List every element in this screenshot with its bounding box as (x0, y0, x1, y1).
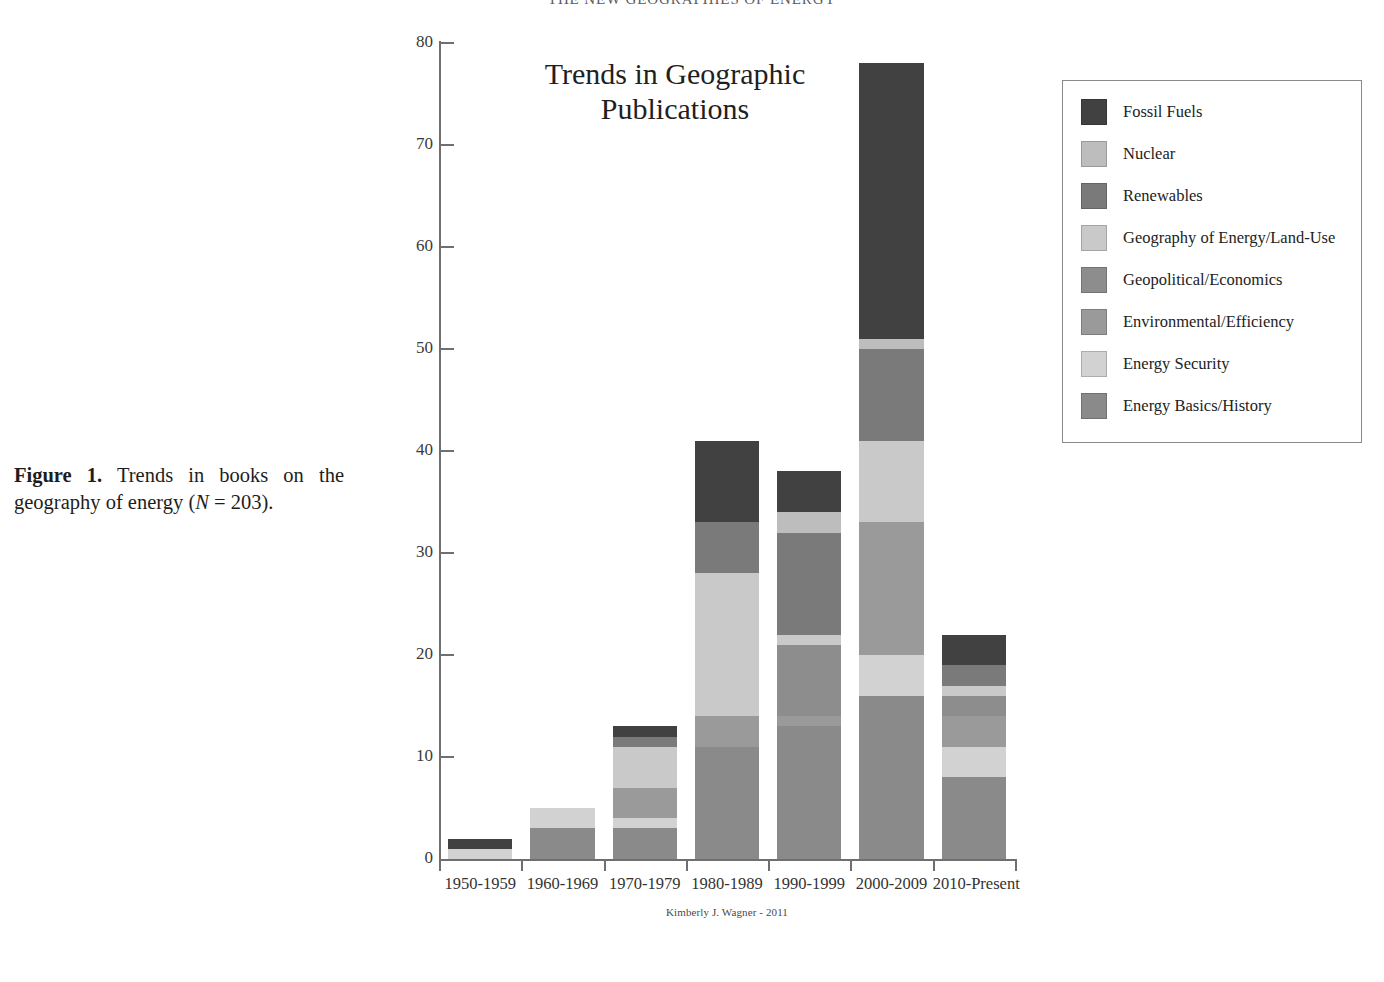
legend-label: Geography of Energy/Land-Use (1123, 228, 1335, 248)
bar-segment (942, 635, 1006, 666)
bar-segment (613, 737, 677, 747)
bar-segment (613, 828, 677, 859)
x-axis-label-1950-1959: 1950-1959 (439, 874, 521, 894)
chart-figure: Trends in Geographic Publications 010203… (415, 38, 1015, 863)
x-axis-label-2000-2009: 2000-2009 (850, 874, 932, 894)
bar-segment (777, 726, 841, 859)
bar-segment (695, 747, 759, 859)
x-axis-label-1960-1969: 1960-1969 (521, 874, 603, 894)
bar-segment (942, 665, 1006, 685)
running-head: THE NEW GEOGRAPHIES OF ENERGY (0, 0, 1384, 8)
x-axis-label-1990-1999: 1990-1999 (768, 874, 850, 894)
y-tick-label-70: 70 (389, 134, 433, 154)
bar-segment (777, 645, 841, 716)
bar-segment (942, 696, 1006, 716)
bar-2010-Present (942, 635, 1006, 859)
bar-segment (777, 471, 841, 512)
figure-caption: Figure 1. Trends in books on the geograp… (14, 462, 344, 517)
bar-1950-1959 (448, 839, 512, 859)
bar-segment (942, 777, 1006, 859)
bar-segment (613, 726, 677, 736)
legend-label: Environmental/Efficiency (1123, 312, 1294, 332)
legend-item-environmental-efficiency[interactable]: Environmental/Efficiency (1081, 309, 1351, 335)
y-tick-label-40: 40 (389, 440, 433, 460)
bar-segment (695, 716, 759, 747)
bar-segment (613, 818, 677, 828)
plot-area: 01020304050607080 1950-19591960-19691970… (415, 38, 1015, 863)
y-tick-label-10: 10 (389, 746, 433, 766)
figure-page: THE NEW GEOGRAPHIES OF ENERGY Figure 1. … (0, 0, 1384, 982)
x-axis-label-2010-Present: 2010-Present (933, 874, 1015, 894)
bar-segment (942, 686, 1006, 696)
legend-label: Energy Basics/History (1123, 396, 1272, 416)
legend-swatch-icon (1081, 183, 1107, 209)
bar-segment (777, 512, 841, 532)
legend-item-nuclear[interactable]: Nuclear (1081, 141, 1351, 167)
bar-segment (530, 808, 594, 828)
y-tick-label-0: 0 (389, 848, 433, 868)
bar-1980-1989 (695, 441, 759, 859)
legend-label: Nuclear (1123, 144, 1175, 164)
chart-credit: Kimberly J. Wagner - 2011 (439, 906, 1015, 918)
legend-item-renewables[interactable]: Renewables (1081, 183, 1351, 209)
bar-segment (859, 63, 923, 338)
bar-segment (777, 635, 841, 645)
bar-segment (530, 828, 594, 859)
legend-swatch-icon (1081, 225, 1107, 251)
bar-2000-2009 (859, 63, 923, 859)
legend-item-geography-of-energy-land-use[interactable]: Geography of Energy/Land-Use (1081, 225, 1351, 251)
legend-label: Renewables (1123, 186, 1203, 206)
legend-swatch-icon (1081, 267, 1107, 293)
caption-italic-n: N (195, 491, 209, 513)
legend-swatch-icon (1081, 309, 1107, 335)
legend-label: Geopolitical/Economics (1123, 270, 1282, 290)
legend-swatch-icon (1081, 99, 1107, 125)
bar-segment (613, 788, 677, 819)
y-tick-label-30: 30 (389, 542, 433, 562)
bar-segment (942, 747, 1006, 778)
legend-item-energy-security[interactable]: Energy Security (1081, 351, 1351, 377)
chart-legend: Fossil FuelsNuclearRenewablesGeography o… (1062, 80, 1362, 443)
legend-swatch-icon (1081, 393, 1107, 419)
x-axis-labels: 1950-19591960-19691970-19791980-19891990… (439, 874, 1015, 900)
legend-item-energy-basics-history[interactable]: Energy Basics/History (1081, 393, 1351, 419)
bar-segment (942, 716, 1006, 747)
bar-1990-1999 (777, 471, 841, 859)
y-tick-label-80: 80 (389, 32, 433, 52)
bar-segment (859, 696, 923, 859)
bar-segment (448, 839, 512, 849)
bar-series-group (439, 38, 1015, 861)
bar-segment (859, 441, 923, 523)
bar-segment (448, 849, 512, 859)
x-axis-label-1980-1989: 1980-1989 (686, 874, 768, 894)
caption-label: Figure 1. (14, 464, 102, 486)
y-tick-label-20: 20 (389, 644, 433, 664)
bar-segment (859, 349, 923, 441)
bar-segment (859, 339, 923, 349)
legend-label: Fossil Fuels (1123, 102, 1202, 122)
y-tick-label-60: 60 (389, 236, 433, 256)
bar-segment (859, 655, 923, 696)
bar-segment (695, 573, 759, 716)
legend-item-geopolitical-economics[interactable]: Geopolitical/Economics (1081, 267, 1351, 293)
legend-swatch-icon (1081, 351, 1107, 377)
bar-segment (777, 716, 841, 726)
bar-1960-1969 (530, 808, 594, 859)
caption-text-after: = 203). (209, 491, 274, 513)
x-tick (1015, 859, 1017, 871)
bar-segment (695, 441, 759, 523)
legend-swatch-icon (1081, 141, 1107, 167)
legend-label: Energy Security (1123, 354, 1229, 374)
x-axis-label-1970-1979: 1970-1979 (604, 874, 686, 894)
bar-segment (859, 522, 923, 655)
bar-segment (777, 533, 841, 635)
bar-1970-1979 (613, 726, 677, 859)
legend-item-fossil-fuels[interactable]: Fossil Fuels (1081, 99, 1351, 125)
bar-segment (695, 522, 759, 573)
bar-segment (613, 747, 677, 788)
y-tick-label-50: 50 (389, 338, 433, 358)
